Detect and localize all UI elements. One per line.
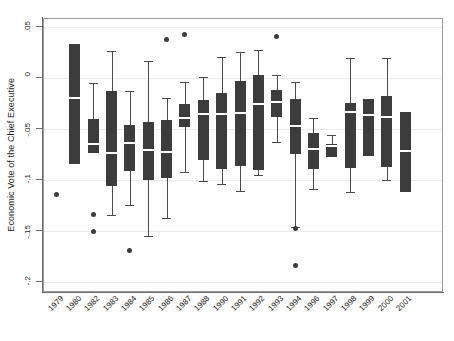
whisker-cap-lower xyxy=(382,180,391,181)
whisker-cap-lower xyxy=(217,184,226,185)
x-axis-tick-label-text: 1992 xyxy=(248,294,267,313)
whisker-lower xyxy=(350,168,351,192)
whisker-cap-lower xyxy=(236,191,245,192)
median-line xyxy=(400,150,411,152)
whisker-upper xyxy=(240,52,241,81)
whisker-lower xyxy=(130,171,131,205)
whisker-cap-lower xyxy=(199,181,208,182)
whisker-cap-upper xyxy=(254,50,263,51)
whisker-cap-upper xyxy=(180,82,189,83)
median-line xyxy=(69,97,80,99)
outlier-point xyxy=(91,229,96,234)
whisker-lower xyxy=(277,117,278,142)
y-axis-title: Economic Vote of the Chief Executive xyxy=(4,18,18,292)
box xyxy=(308,133,319,169)
median-line xyxy=(290,125,301,127)
whisker-cap-lower xyxy=(125,205,134,206)
whisker-lower xyxy=(112,186,113,215)
x-axis-tick-label-text: 1996 xyxy=(303,294,322,313)
x-axis-tick-label-text: 1980 xyxy=(64,294,83,313)
whisker-lower xyxy=(167,178,168,218)
x-axis-tick-label-text: 1984 xyxy=(119,294,138,313)
y-axis-tick-label-text: -.05 xyxy=(23,123,32,137)
whisker-cap-upper xyxy=(144,61,153,62)
whisker-cap-upper xyxy=(291,82,300,83)
x-axis-tick-label-text: 1991 xyxy=(229,294,248,313)
gridline xyxy=(44,78,442,79)
y-axis-tick xyxy=(36,26,42,27)
outlier-point xyxy=(293,263,298,268)
whisker-upper xyxy=(350,58,351,103)
gridline xyxy=(44,27,442,28)
whisker-upper xyxy=(185,82,186,104)
whisker-upper xyxy=(277,75,278,90)
whisker-lower xyxy=(387,167,388,180)
box xyxy=(198,100,209,160)
whisker-cap-lower xyxy=(272,142,281,143)
median-line xyxy=(381,116,392,118)
whisker-cap-upper xyxy=(107,51,116,52)
box xyxy=(235,81,246,166)
whisker-upper xyxy=(167,98,168,120)
median-line xyxy=(179,117,190,119)
outlier-point xyxy=(164,37,169,42)
chart-root: Economic Vote of the Chief Executive .05… xyxy=(0,0,454,341)
whisker-cap-lower xyxy=(107,215,116,216)
box xyxy=(216,93,227,169)
whisker-cap-upper xyxy=(309,118,318,119)
median-line xyxy=(106,152,117,154)
median-line xyxy=(271,101,282,103)
whisker-cap-upper xyxy=(125,91,134,92)
y-axis-tick xyxy=(36,230,42,231)
x-axis-tick-label-text: 1999 xyxy=(358,294,377,313)
y-axis-tick xyxy=(36,128,42,129)
median-line xyxy=(253,103,264,105)
box xyxy=(363,99,374,156)
x-axis-line xyxy=(42,292,444,293)
x-axis-tick-label-text: 1983 xyxy=(101,294,120,313)
whisker-cap-lower xyxy=(180,172,189,173)
median-line xyxy=(161,151,172,153)
whisker-cap-upper xyxy=(236,52,245,53)
box xyxy=(88,119,99,153)
x-axis-tick-label-text: 2001 xyxy=(395,294,414,313)
x-axis-tick-label-text: 1993 xyxy=(266,294,285,313)
x-axis-tick-label-text: 1979 xyxy=(46,294,65,313)
whisker-cap-upper xyxy=(199,77,208,78)
gridline xyxy=(44,282,442,283)
x-axis-tick-label-text: 2000 xyxy=(376,294,395,313)
whisker-cap-lower xyxy=(144,236,153,237)
median-line xyxy=(124,142,135,144)
median-line xyxy=(363,114,374,116)
whisker-lower xyxy=(240,166,241,191)
x-axis-tick-label-text: 1986 xyxy=(156,294,175,313)
whisker-upper xyxy=(258,50,259,75)
median-line xyxy=(198,113,209,115)
whisker-lower xyxy=(203,160,204,181)
y-axis-title-label: Economic Vote of the Chief Executive xyxy=(6,78,16,232)
box xyxy=(106,91,117,186)
box xyxy=(271,90,282,117)
whisker-lower xyxy=(313,169,314,189)
plot-inner xyxy=(44,19,442,291)
box xyxy=(69,44,80,164)
median-line xyxy=(308,148,319,150)
whisker-lower xyxy=(295,154,296,227)
whisker-cap-lower xyxy=(346,192,355,193)
whisker-upper xyxy=(295,82,296,99)
box xyxy=(253,75,264,170)
x-axis-tick-label-text: 1994 xyxy=(284,294,303,313)
y-axis-tick xyxy=(36,281,42,282)
whisker-upper xyxy=(93,83,94,119)
whisker-lower xyxy=(148,180,149,236)
outlier-point xyxy=(274,34,279,39)
whisker-cap-upper xyxy=(382,58,391,59)
y-axis-tick-label-text: .05 xyxy=(23,21,32,32)
whisker-upper xyxy=(332,135,333,144)
y-axis-tick-label-text: -.15 xyxy=(23,225,32,239)
whisker-cap-upper xyxy=(89,83,98,84)
median-line xyxy=(345,111,356,113)
whisker-cap-lower xyxy=(162,218,171,219)
whisker-upper xyxy=(148,61,149,122)
x-axis-tick-label-text: 1990 xyxy=(211,294,230,313)
